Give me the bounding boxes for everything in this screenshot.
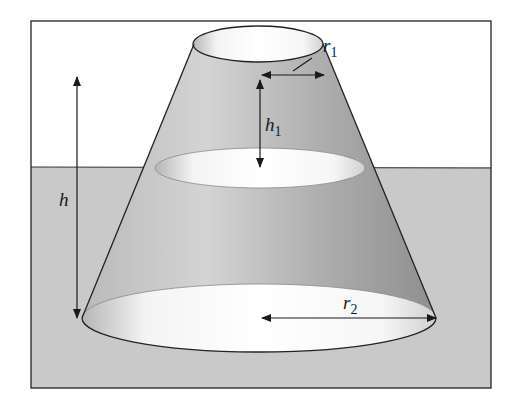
h-label: h bbox=[59, 189, 69, 210]
frustum-diagram: r1 h1 h r2 bbox=[0, 0, 518, 407]
